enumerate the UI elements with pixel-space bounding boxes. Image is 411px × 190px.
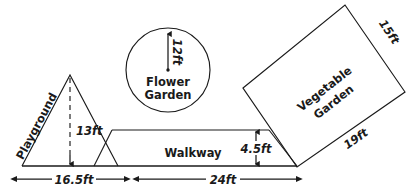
flower-garden-center-dot-icon [166,68,169,71]
flower-garden-shape: 12ft Flower Garden [126,28,210,112]
garden-diagram-canvas: Playground 13ft 12ft Flower Garden Walkw… [0,0,411,190]
flower-garden-label-line2: Garden [144,88,191,102]
flower-garden-radius-label: 12ft [170,39,184,66]
bottom-dimension-16-5ft: 16.5ft [14,171,127,187]
walkway-height-dimension: 4.5ft [240,132,272,164]
flower-garden-label-line1: Flower [146,75,190,89]
vegetable-garden-side-label-19ft: 19ft [341,125,371,152]
vegetable-garden-side-label-15ft: 15ft [376,17,403,47]
walkway-height-label: 4.5ft [240,142,272,156]
playground-base-label: 16.5ft [55,173,94,187]
walkway-base-label: 24ft [210,173,237,187]
bottom-dimension-24ft: 24ft [136,171,299,187]
playground-height-label: 13ft [76,124,103,138]
playground-height-dimension: 13ft [70,78,103,164]
walkway-label: Walkway [164,146,222,160]
playground-label: Playground [13,90,60,162]
garden-plan-diagram: Playground 13ft 12ft Flower Garden Walkw… [0,0,411,190]
